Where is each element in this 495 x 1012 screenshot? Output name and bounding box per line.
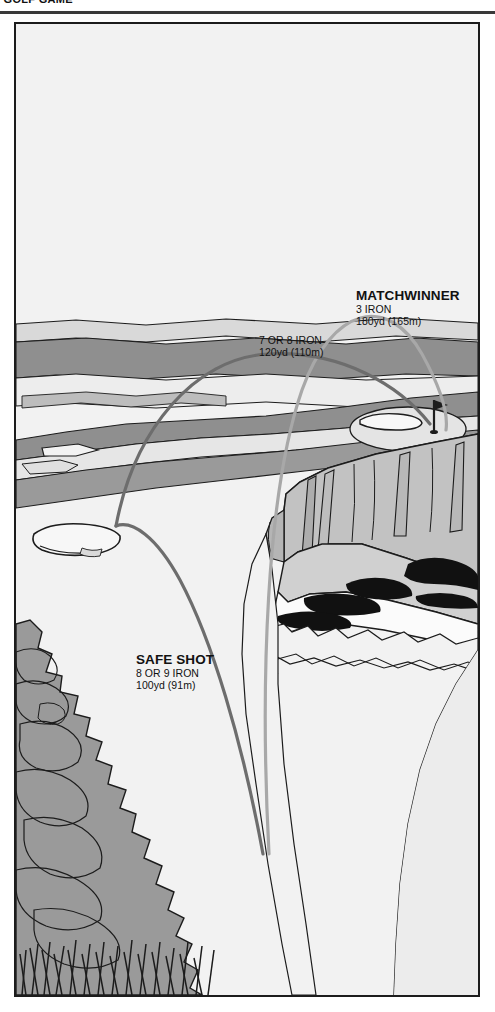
callout-safeshot-title: SAFE SHOT	[136, 652, 214, 667]
callout-matchwinner-club: 3 IRON	[356, 303, 460, 315]
callout-matchwinner-distance: 180yd (165m)	[356, 315, 460, 327]
callout-midiron: 7 OR 8 IRON 120yd (110m)	[259, 334, 324, 359]
golf-hole-illustration	[16, 24, 478, 995]
callout-safeshot-club: 8 OR 9 IRON	[136, 667, 214, 679]
running-head: R GOLF GAME	[0, 0, 495, 10]
header-rule	[0, 11, 495, 14]
callout-matchwinner: MATCHWINNER 3 IRON 180yd (165m)	[356, 288, 460, 328]
callout-safeshot: SAFE SHOT 8 OR 9 IRON 100yd (91m)	[136, 652, 214, 692]
callout-midiron-distance: 120yd (110m)	[259, 346, 324, 358]
callout-matchwinner-title: MATCHWINNER	[356, 288, 460, 303]
callout-midiron-club: 7 OR 8 IRON	[259, 334, 324, 346]
running-head-text: R GOLF GAME	[0, 0, 73, 5]
illustration-frame: MATCHWINNER 3 IRON 180yd (165m) 7 OR 8 I…	[14, 22, 480, 997]
callout-safeshot-distance: 100yd (91m)	[136, 679, 214, 691]
page-root: R GOLF GAME	[0, 0, 495, 1012]
